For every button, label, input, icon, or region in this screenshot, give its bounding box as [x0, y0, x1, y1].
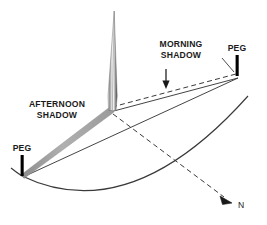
peg-right — [236, 55, 239, 76]
peg-right-label: PEG — [228, 43, 247, 53]
shadow-diagram-root: MORNING SHADOW AFTERNOON SHADOW PEG PEG … — [0, 0, 267, 225]
shadow-stick-figure: MORNING SHADOW AFTERNOON SHADOW PEG PEG … — [0, 0, 267, 225]
afternoon-shadow-label-line2: SHADOW — [37, 110, 78, 120]
north-label: N — [238, 200, 244, 210]
morning-shadow-label-line1: MORNING — [160, 39, 203, 49]
morning-shadow-label-line2: SHADOW — [161, 50, 202, 60]
afternoon-shadow-label-line1: AFTERNOON — [29, 99, 85, 109]
peg-left-label: PEG — [13, 143, 32, 153]
peg-left — [21, 155, 24, 176]
